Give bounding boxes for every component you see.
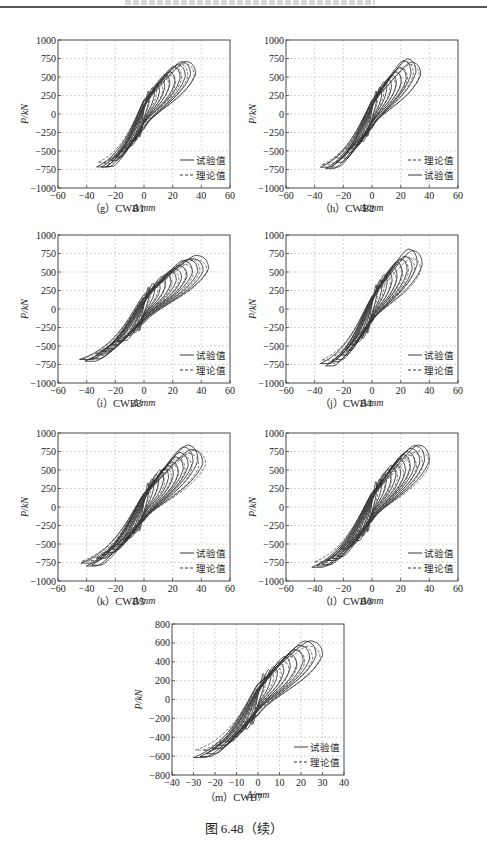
x-tick-label: 10	[275, 777, 285, 788]
legend-theory-label: 理论值	[196, 365, 226, 376]
y-tick-label: 800	[155, 619, 170, 630]
y-tick-label: 0	[165, 694, 170, 705]
y-tick-label: −1000	[30, 576, 56, 587]
y-tick-label: 750	[41, 248, 56, 259]
y-tick-label: −600	[149, 751, 170, 762]
x-tick-label: −10	[229, 777, 245, 788]
y-tick-label: 500	[41, 465, 56, 476]
y-tick-label: 250	[269, 483, 284, 494]
x-tick-label: −20	[207, 777, 223, 788]
x-tick-label: 40	[424, 583, 434, 594]
x-tick-label: 20	[396, 190, 406, 201]
x-tick-label: 0	[142, 385, 147, 396]
y-tick-label: −1000	[258, 183, 284, 194]
y-tick-label: −1000	[30, 183, 56, 194]
x-tick-label: 60	[453, 385, 463, 396]
x-tick-label: 20	[396, 385, 406, 396]
y-tick-label: 600	[155, 637, 170, 648]
series-test	[81, 445, 203, 566]
legend-test-label: 试验值	[424, 548, 454, 559]
y-tick-label: 250	[41, 483, 56, 494]
y-tick-label: 750	[269, 248, 284, 259]
panel-caption-j: （j）CWB4	[320, 395, 372, 410]
x-tick-label: 60	[225, 190, 235, 201]
legend-test-label: 试验值	[196, 548, 226, 559]
x-tick-label: 60	[225, 385, 235, 396]
grid	[286, 40, 458, 188]
x-tick-label: 60	[453, 583, 463, 594]
y-tick-label: 250	[269, 90, 284, 101]
chart-panel-m: −40−30−20−10010203040−800−600−400−200020…	[132, 624, 349, 805]
x-tick-label: 40	[339, 777, 349, 788]
legend-test-label: 试验值	[424, 350, 454, 361]
y-tick-label: −800	[149, 770, 170, 781]
x-tick-label: 40	[196, 385, 206, 396]
y-tick-label: 1000	[264, 35, 284, 46]
y-axis-label: P/kN	[247, 103, 258, 125]
y-tick-label: −750	[263, 164, 284, 175]
y-tick-label: 250	[41, 90, 56, 101]
legend: 试验值理论值	[180, 350, 226, 376]
x-tick-label: −30	[186, 777, 202, 788]
legend-theory-label: 理论值	[196, 563, 226, 574]
y-tick-label: −400	[149, 732, 170, 743]
y-tick-label: −750	[263, 359, 284, 370]
y-tick-label: 1000	[264, 230, 284, 241]
y-tick-label: 750	[269, 53, 284, 64]
y-tick-label: −250	[263, 520, 284, 531]
x-tick-label: 60	[453, 190, 463, 201]
y-tick-label: −750	[35, 557, 56, 568]
x-tick-label: 0	[256, 777, 261, 788]
grid	[286, 433, 458, 581]
y-tick-label: −250	[35, 520, 56, 531]
x-tick-label: 20	[296, 777, 306, 788]
header-rule	[0, 6, 487, 8]
y-tick-label: 0	[51, 109, 56, 120]
y-tick-label: 0	[279, 502, 284, 513]
y-tick-label: 0	[51, 502, 56, 513]
legend-theory-label: 理论值	[196, 170, 226, 181]
y-tick-label: −750	[263, 557, 284, 568]
legend-test-label: 试验值	[196, 350, 226, 361]
panel-caption-g: （g）CWB1	[90, 200, 144, 215]
y-axis-label: P/kN	[19, 298, 30, 320]
y-tick-label: −250	[263, 127, 284, 138]
legend-test-label: 试验值	[424, 170, 454, 181]
y-tick-label: 1000	[264, 428, 284, 439]
y-tick-label: −1000	[30, 378, 56, 389]
legend: 理论值试验值	[408, 155, 454, 181]
y-tick-label: −750	[35, 164, 56, 175]
chart-panel-g: −60−40−200204060−1000−750−500−2500250500…	[18, 40, 235, 218]
x-tick-label: 20	[168, 190, 178, 201]
y-tick-label: 750	[41, 446, 56, 457]
x-tick-label: 20	[396, 583, 406, 594]
series-theory	[82, 259, 207, 359]
running-header	[125, 0, 375, 5]
y-tick-label: −750	[35, 359, 56, 370]
panel-caption-k: （k）CWB5	[90, 593, 144, 608]
legend: 试验值理论值	[180, 155, 226, 181]
x-tick-label: 40	[196, 583, 206, 594]
y-tick-label: 500	[269, 267, 284, 278]
y-tick-label: −250	[35, 322, 56, 333]
legend: 试验值理论值	[408, 350, 454, 376]
chart-panel-j: −60−40−200204060−1000−750−500−2500250500…	[246, 235, 463, 413]
y-tick-label: −500	[35, 341, 56, 352]
chart-panel-i: −60−40−200204060−1000−750−500−2500250500…	[18, 235, 235, 413]
y-tick-label: −500	[35, 539, 56, 550]
grid	[286, 235, 458, 383]
x-tick-label: 40	[424, 385, 434, 396]
y-axis-label: P/kN	[19, 103, 30, 125]
x-tick-label: 20	[168, 385, 178, 396]
y-axis-label: P/kN	[133, 688, 144, 710]
panel-caption-i: （i）CWB3	[90, 395, 142, 410]
y-tick-label: 500	[269, 72, 284, 83]
grid	[58, 235, 230, 383]
y-tick-label: 500	[41, 72, 56, 83]
chart-panel-h: −60−40−200204060−1000−750−500−2500250500…	[246, 40, 463, 218]
y-tick-label: 200	[155, 675, 170, 686]
legend-test-label: 试验值	[310, 742, 340, 753]
x-tick-label: 20	[168, 583, 178, 594]
y-tick-label: −200	[149, 713, 170, 724]
y-axis-label: P/kN	[19, 496, 30, 518]
